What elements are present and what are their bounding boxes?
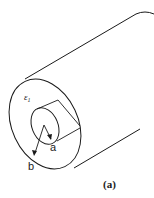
inner-cylinder-top-edge xyxy=(37,100,80,126)
coaxial-cable-diagram: ε1 a b (a) xyxy=(0,0,154,198)
figure-caption: (a) xyxy=(103,178,116,191)
outer-radius-label: b xyxy=(28,160,34,172)
cylinder-top-edge xyxy=(25,12,154,79)
cylinder-bottom-edge xyxy=(74,129,140,168)
dielectric-label: ε1 xyxy=(24,92,31,103)
inner-radius-label: a xyxy=(50,141,57,153)
radius-a-arrow xyxy=(44,125,52,140)
radius-b-arrow xyxy=(32,125,44,156)
inner-cylinder-bottom-edge xyxy=(57,128,80,141)
